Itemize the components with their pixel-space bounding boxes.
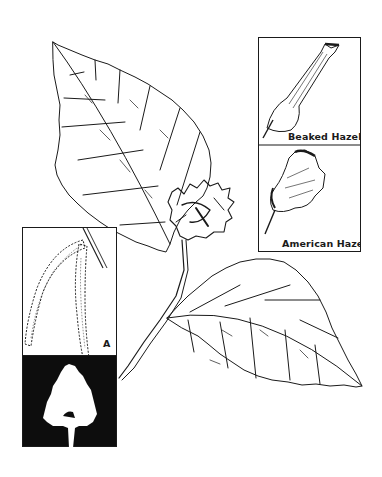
lower-leaf <box>167 259 362 387</box>
american-hazel-fruit <box>270 150 325 212</box>
illustration-canvas: Beaked Hazel American Hazel A <box>0 0 382 477</box>
inset-catkins: A <box>22 227 117 356</box>
tree-silhouette <box>23 356 118 448</box>
catkin-label-a: A <box>103 338 110 349</box>
inset-tree-silhouette <box>22 355 117 447</box>
fruit-drawings <box>259 38 361 252</box>
beaked-hazel-label: Beaked Hazel <box>288 131 361 142</box>
beaked-hazel-fruit <box>267 44 339 132</box>
american-hazel-label: American Hazel <box>282 238 361 249</box>
tree-crown-shape <box>43 364 97 448</box>
catkin-drawing <box>23 228 117 356</box>
catkin-right <box>75 244 89 356</box>
inset-hazel-fruits: Beaked Hazel American Hazel <box>258 37 361 252</box>
